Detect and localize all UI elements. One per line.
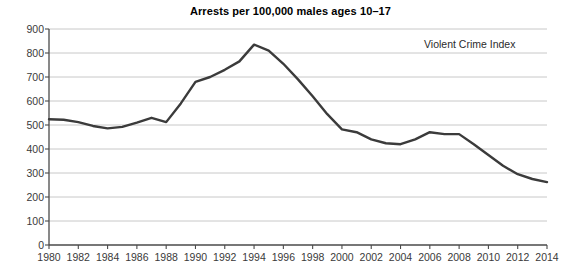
y-tick-label: 500 [4,120,44,130]
y-tick-label: 300 [4,168,44,178]
y-tick-label: 800 [4,48,44,58]
x-tick-label: 2014 [527,251,567,263]
plot-area [49,29,547,245]
y-tick-label: 0 [4,240,44,250]
y-tick-label: 600 [4,96,44,106]
data-series-violent-crime-index [49,29,547,245]
y-tick-label: 200 [4,192,44,202]
y-tick-label: 400 [4,144,44,154]
y-tick-label: 100 [4,216,44,226]
chart-title: Arrests per 100,000 males ages 10–17 [0,5,581,17]
y-tick-label: 700 [4,72,44,82]
series-line [49,45,547,183]
y-tick-label: 900 [4,24,44,34]
y-axis-tick-labels: 0100200300400500600700800900 [0,29,44,245]
x-axis-tick-labels: 1980198219841986198819901992199419961998… [49,251,547,267]
chart-container: Arrests per 100,000 males ages 10–17 Vio… [0,0,581,280]
